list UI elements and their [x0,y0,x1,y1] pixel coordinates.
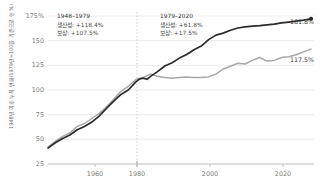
productivity-end-label: 161.8% [290,18,314,25]
y-tick-label: 125 [18,61,44,69]
x-tick-label: 2000 [202,170,218,178]
annotation-range: 1979–2020 [160,12,203,21]
x-tick-label: 1960 [87,170,103,178]
annotation-period-1948-1979: 1948–1979 생산성: +118.4% 보상: +107.5% [57,12,103,38]
annotation-compensation: 보상: +107.5% [57,29,103,38]
annotation-productivity: 생산성: +118.4% [57,21,103,30]
x-tick-label: 2020 [275,170,291,178]
compensation-line [48,49,311,147]
annotation-period-1979-2020: 1979–2020 생산성: +61.8% 보상: +17.5% [160,12,203,38]
annotation-range: 1948–1979 [57,12,103,21]
y-tick-label: 150 [18,37,44,45]
compensation-end-label: 117.5% [290,56,314,63]
annotation-productivity: 생산성: +61.8% [160,21,203,30]
y-tick-label: 25 [18,160,44,168]
y-axis-tick-labels: 175% 150 125 100 75 50 25 [18,0,44,187]
x-tick-label: 1980 [129,170,145,178]
y-tick-label: 100 [18,86,44,94]
productivity-compensation-chart: 1948년 이후 누적 변화(1979년=100을 기준으로 한 %) 175%… [0,0,326,187]
y-axis-title: 1948년 이후 누적 변화(1979년=100을 기준으로 한 %) [7,0,14,139]
annotation-compensation: 보상: +17.5% [160,29,203,38]
y-tick-label: 175% [18,12,44,20]
y-tick-label: 75 [18,111,44,119]
y-tick-label: 50 [18,135,44,143]
